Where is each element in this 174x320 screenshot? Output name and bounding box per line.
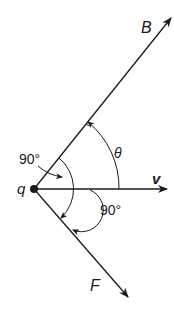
upper-90-label: 90° — [19, 151, 40, 167]
upper-90-pointer — [38, 166, 62, 177]
b-vector-tick — [86, 124, 89, 126]
f-label: F — [90, 277, 101, 294]
charge-label: q — [17, 180, 26, 197]
v-label: v — [152, 170, 162, 187]
b-label: B — [141, 19, 152, 36]
b-vector-line — [34, 18, 171, 189]
force-diagram: q B v F θ 90° 90° — [0, 0, 174, 320]
v-to-f-arc — [73, 190, 103, 232]
theta-label: θ — [114, 145, 122, 161]
lower-90-label: 90° — [100, 202, 121, 218]
charge-dot — [30, 185, 38, 193]
b-to-f-arc — [59, 158, 74, 218]
